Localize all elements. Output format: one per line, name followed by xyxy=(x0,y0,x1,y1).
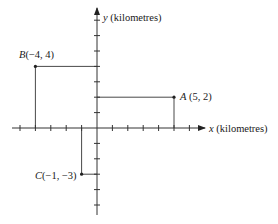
x-axis-label: x (kilometres) xyxy=(208,123,268,135)
point-c-coords: (−1, −3) xyxy=(42,170,77,182)
y-axis-unit: (kilometres) xyxy=(108,12,162,24)
point-b-marker xyxy=(34,65,37,68)
point-label-b: B(−4, 4) xyxy=(19,49,55,61)
point-label-c: C(−1, −3) xyxy=(35,170,77,182)
point-a-marker xyxy=(172,96,175,99)
x-axis-unit: (kilometres) xyxy=(214,123,268,135)
point-label-a: A (5, 2) xyxy=(179,91,212,103)
plotted-points xyxy=(34,65,176,176)
point-c-marker xyxy=(80,173,83,176)
point-b-coords: (−4, 4) xyxy=(25,49,54,61)
y-axis-label: y (kilometres) xyxy=(102,12,162,24)
point-a-coords: (5, 2) xyxy=(186,91,212,103)
coordinate-diagram: x (kilometres) y (kilometres) A (5, 2) B… xyxy=(0,0,278,224)
projection-lines xyxy=(35,66,174,174)
